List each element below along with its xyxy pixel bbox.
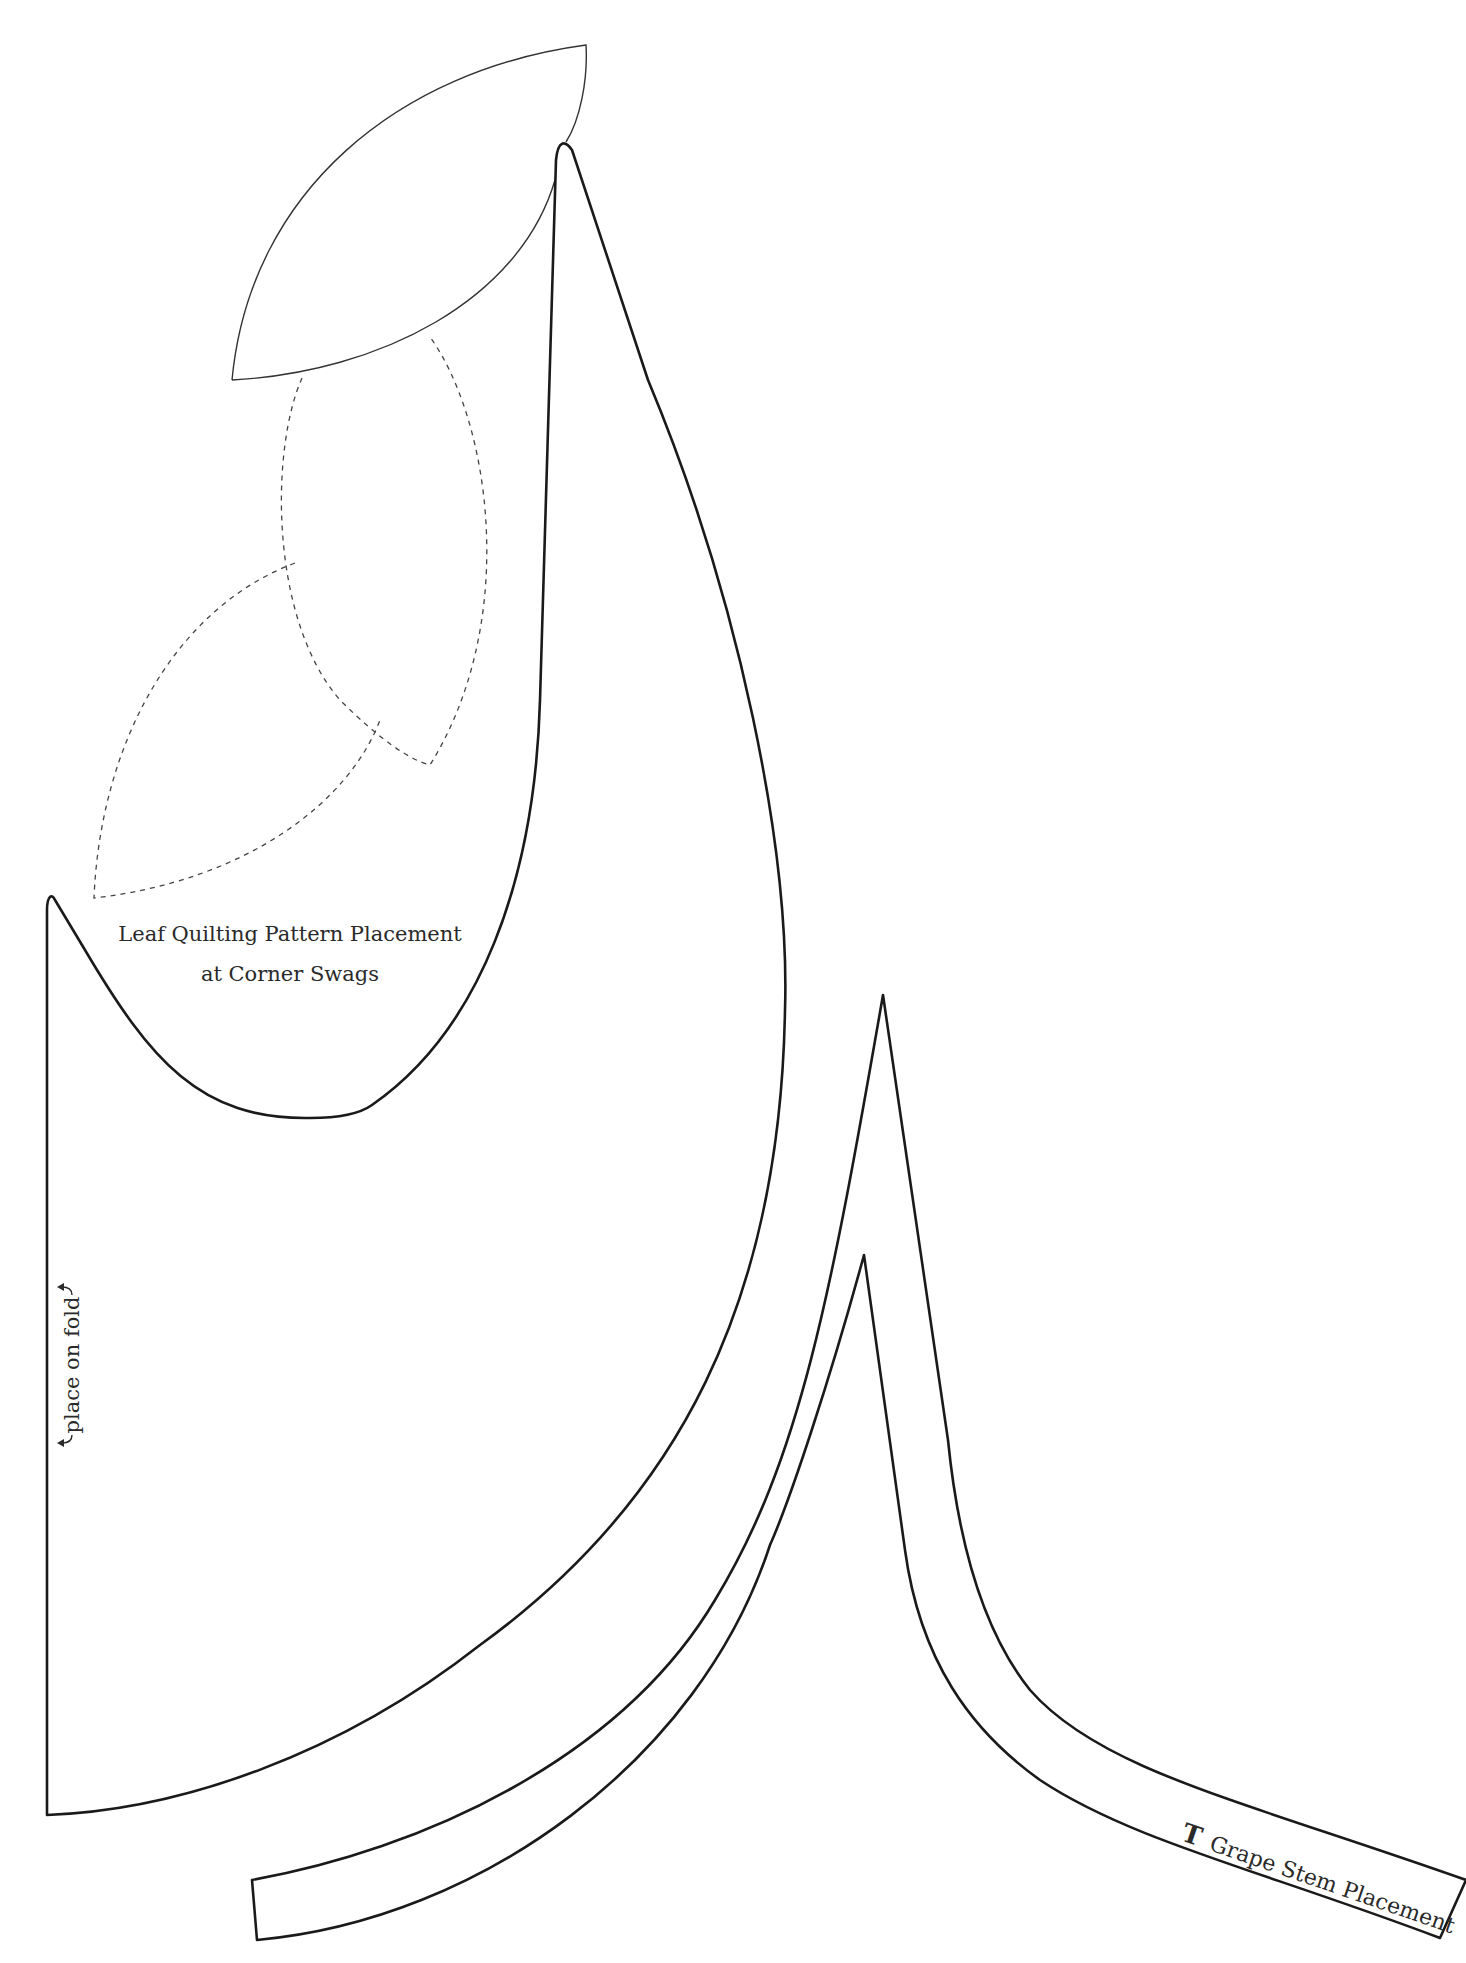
stem-marker-icon: T [1178, 1817, 1207, 1852]
leaf-placement-label-line1: Leaf Quilting Pattern Placement [118, 922, 462, 946]
leaf-shape-solid [232, 45, 586, 380]
fold-label: place on fold [60, 1297, 84, 1434]
stem-placement-label: Grape Stem Placement [1207, 1831, 1459, 1938]
leaf-shape-dashed-middle [281, 337, 486, 765]
stem-placement-label-group: T Grape Stem Placement [1178, 1817, 1460, 1939]
fold-indicator: place on fold [57, 1283, 84, 1447]
quilt-pattern-template: Leaf Quilting Pattern Placement at Corne… [0, 0, 1466, 1963]
leaf-placement-label-line2: at Corner Swags [201, 962, 379, 986]
swag-outline [47, 143, 785, 1815]
stem-outline [252, 995, 1466, 1940]
leaf-shape-dashed-lower [94, 563, 380, 898]
